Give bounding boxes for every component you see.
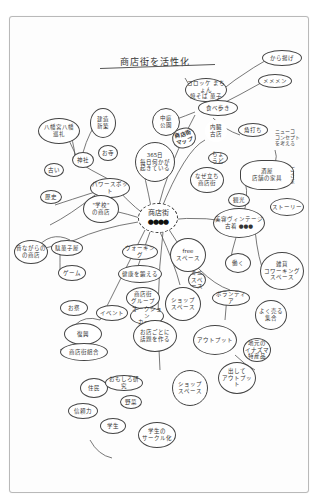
node-omosiro: おもしろ研究 xyxy=(105,375,143,391)
note-side: ご さ ま xyxy=(290,166,295,184)
node-kenko: 健康を鍛える xyxy=(118,265,162,283)
node-rekishi: 歴史 xyxy=(40,190,62,204)
node-dashite: 出して アウトプット xyxy=(218,362,256,394)
node-history: 365日 毎日何かが 起きている xyxy=(135,142,175,182)
node-shinrai: 信頼力 xyxy=(68,403,98,419)
node-menmen: メメメン xyxy=(258,74,292,88)
node-dagashi: 駄菓子屋 xyxy=(51,240,83,256)
node-taberu: 食べ歩き xyxy=(198,100,238,116)
node-goods: よく売る 集合 xyxy=(255,300,287,330)
node-naigai: 内臓 古店 xyxy=(205,120,227,142)
node-borantia: ボランティア xyxy=(212,290,250,306)
node-shop-space: ショップ スペース xyxy=(165,287,201,321)
node-story: ストーリー xyxy=(270,198,304,216)
node-output: アウトプット xyxy=(193,325,237,355)
node-omatsuri: お祭 xyxy=(60,300,88,316)
node-jinja: 神社 xyxy=(72,152,94,168)
node-otera: お寺 xyxy=(98,145,118,161)
node-walking: ウォーキング xyxy=(122,244,158,260)
node-event: イベント xyxy=(96,305,128,321)
node-sakaba: 酒屋 店舗の家具 xyxy=(240,160,294,190)
node-jumin: 住民 xyxy=(80,378,108,398)
node-kara: から揚げ xyxy=(262,50,302,66)
node-coworking: 雑貨 コワーキング スペース xyxy=(260,252,304,290)
node-gakusei-sns: 学生の サークル化 xyxy=(138,422,176,448)
node-fukko: 復興 xyxy=(64,323,102,345)
node-kakuuchi: 角打ち xyxy=(238,123,268,137)
node-yasai: 野菜 xyxy=(120,395,142,409)
node-bobi: 美容ヴィンテージ 古着 ●●● xyxy=(213,208,265,238)
center-node: 商店街 ●●●● xyxy=(138,203,178,233)
node-shotengai-kumiai: 商店街組合 xyxy=(60,343,108,361)
node-gakusei: 学生 xyxy=(100,418,126,434)
node-mukashi: 昔ながらの の商店 xyxy=(14,240,48,264)
node-omise: お店ごとに 話題を作る xyxy=(133,320,177,352)
node-kanko: 観光 xyxy=(228,193,250,207)
node-korokke: コロッケ まちょん 焼そば 菓子 xyxy=(185,78,227,102)
node-small: ミニ スペース xyxy=(188,272,206,288)
node-oshie: ちょうど xyxy=(208,152,228,164)
node-kenzou: 建造 新築 xyxy=(90,108,116,138)
node-gakko: "学校" の商店 xyxy=(83,195,119,223)
node-furui: 古い xyxy=(44,163,64,177)
center-label: 商店街 xyxy=(148,209,169,217)
node-game: ゲーム xyxy=(58,265,86,281)
node-hataraku: 働く xyxy=(225,253,251,273)
node-free-space: free スペース xyxy=(170,238,206,272)
note-concept: ニューコ コンセプト を考える xyxy=(275,128,300,146)
node-yobare: なぜ立ち 商店街 xyxy=(190,167,224,193)
node-oishii: 地元の イナズマ 特産品 xyxy=(243,338,271,362)
node-shop-space2: ショップ スペース xyxy=(172,370,208,406)
node-hachiman: 八幡宮八幡 巡礼 xyxy=(38,118,80,144)
center-marks: ●●●● xyxy=(148,218,169,227)
